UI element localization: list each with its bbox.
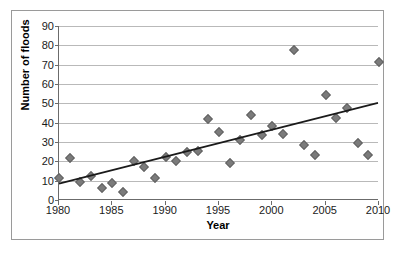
- plot-area: [58, 26, 378, 200]
- gridline: [59, 103, 378, 104]
- y-axis-tick-label: 70: [42, 60, 54, 71]
- x-axis-tick-label: 2005: [312, 205, 336, 216]
- data-point: [107, 178, 117, 188]
- y-axis-tick-labels: 0102030405060708090: [12, 26, 54, 200]
- gridline: [59, 142, 378, 143]
- y-axis-tick-label: 90: [42, 21, 54, 32]
- data-point: [214, 127, 224, 137]
- data-point: [278, 129, 288, 139]
- x-axis-tick-label: 2010: [366, 205, 390, 216]
- data-point: [182, 147, 192, 157]
- y-axis-tickmark: [55, 103, 59, 104]
- data-point: [193, 146, 203, 156]
- trendline: [59, 26, 378, 199]
- gridline: [59, 123, 378, 124]
- x-axis-title: Year: [58, 219, 378, 231]
- data-point: [235, 135, 245, 145]
- gridline: [59, 84, 378, 85]
- data-point: [310, 150, 320, 160]
- y-axis-tickmark: [55, 26, 59, 27]
- x-axis-tick-label: 1990: [152, 205, 176, 216]
- y-axis-tickmark: [55, 65, 59, 66]
- data-point: [75, 177, 85, 187]
- x-axis-tick-labels: 1980198519901995200020052010: [58, 201, 378, 219]
- y-axis-tick-label: 20: [42, 156, 54, 167]
- gridline: [59, 161, 378, 162]
- y-axis-tick-label: 10: [42, 176, 54, 187]
- y-axis-tick-label: 50: [42, 98, 54, 109]
- x-axis-tick-label: 1995: [206, 205, 230, 216]
- figure-frame: Number of floods 0102030405060708090 198…: [11, 10, 384, 240]
- data-point: [86, 171, 96, 181]
- data-point: [246, 110, 256, 120]
- data-point: [225, 158, 235, 168]
- data-point: [257, 130, 267, 140]
- data-point: [118, 187, 128, 197]
- data-point: [97, 183, 107, 193]
- y-axis-tick-label: 30: [42, 137, 54, 148]
- y-axis-tickmark: [55, 142, 59, 143]
- y-axis-tickmark: [55, 161, 59, 162]
- y-axis-tick-label: 60: [42, 79, 54, 90]
- data-point: [342, 103, 352, 113]
- y-axis-tickmark: [55, 181, 59, 182]
- y-axis-tickmark: [55, 84, 59, 85]
- gridline: [59, 26, 378, 27]
- data-point: [321, 90, 331, 100]
- data-point: [353, 138, 363, 148]
- gridline: [59, 45, 378, 46]
- data-point: [161, 152, 171, 162]
- data-point: [129, 156, 139, 166]
- data-point: [363, 150, 373, 160]
- data-point: [289, 45, 299, 55]
- y-axis-tick-label: 40: [42, 118, 54, 129]
- scatter-chart: Number of floods 0102030405060708090 198…: [12, 11, 383, 239]
- data-point: [139, 162, 149, 172]
- data-point: [331, 113, 341, 123]
- data-point: [171, 156, 181, 166]
- x-axis-tick-label: 2000: [259, 205, 283, 216]
- y-axis-tick-label: 80: [42, 40, 54, 51]
- x-axis-tick-label: 1985: [99, 205, 123, 216]
- x-axis-tick-label: 1980: [46, 205, 70, 216]
- gridline: [59, 65, 378, 66]
- y-axis-tickmark: [55, 123, 59, 124]
- y-axis-tickmark: [55, 45, 59, 46]
